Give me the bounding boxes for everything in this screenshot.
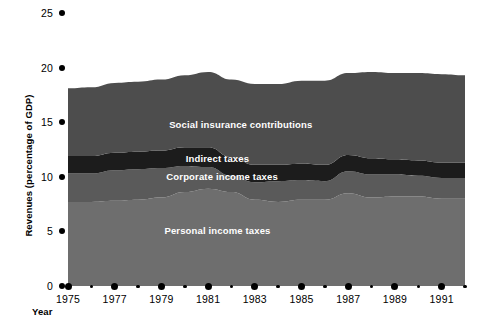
x-tick-label: 1981 <box>196 293 220 305</box>
x-tick-dot <box>183 285 187 289</box>
x-tick-dot <box>323 285 327 289</box>
x-tick-label: 1991 <box>430 293 454 305</box>
area-band-personal-income-taxes <box>68 189 465 286</box>
area-band-social-insurance-contributions <box>68 72 465 165</box>
stacked-area-chart: Revenues (percentage of GDP) 0510152025 … <box>0 0 479 326</box>
x-tick-label: 1987 <box>336 293 360 305</box>
x-tick-dot <box>136 285 140 289</box>
x-tick-dot <box>65 283 72 290</box>
series-label-personal-income-taxes: Personal income taxes <box>164 225 270 236</box>
x-tick-dot <box>298 283 305 290</box>
plot-baseline <box>68 285 465 286</box>
series-label-corporate-income-taxes: Corporate income taxes <box>166 171 278 182</box>
x-tick-dot <box>345 283 352 290</box>
series-label-indirect-taxes: Indirect taxes <box>186 153 249 164</box>
x-axis-title: Year <box>32 306 52 317</box>
x-tick-label: 1977 <box>103 293 127 305</box>
x-tick-dot <box>205 283 212 290</box>
x-tick-label: 1975 <box>56 293 80 305</box>
x-tick-label: 1983 <box>243 293 267 305</box>
series-label-social-insurance-contributions: Social insurance contributions <box>169 119 312 130</box>
x-tick-label: 1989 <box>383 293 407 305</box>
x-tick-dot <box>158 283 165 290</box>
x-tick-dot <box>463 285 467 289</box>
x-tick-label: 1985 <box>289 293 313 305</box>
x-tick-label: 1979 <box>149 293 173 305</box>
